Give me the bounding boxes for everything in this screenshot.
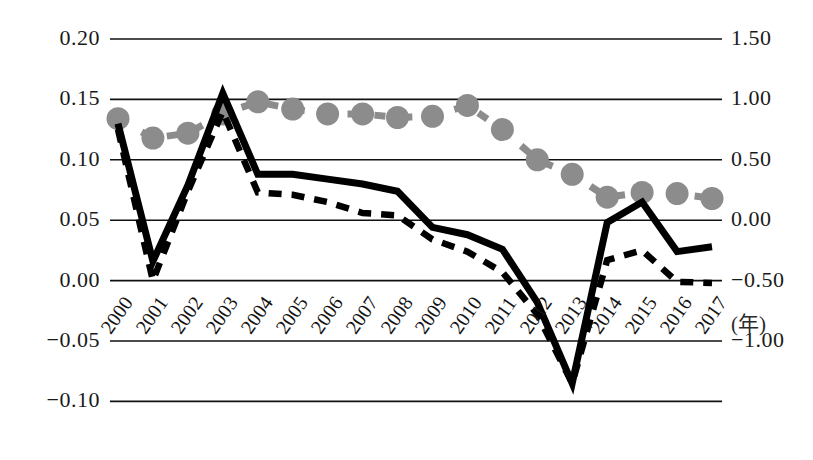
data-point-marker	[316, 102, 339, 125]
data-point-marker	[526, 148, 549, 171]
left-axis-tick-label: 0.10	[0, 146, 100, 172]
left-axis-tick-label: −0.05	[0, 327, 100, 353]
right-axis-tick-label: 0.00	[731, 206, 772, 232]
left-axis-tick-label: 0.15	[0, 85, 100, 111]
chart-container: 0.200.150.100.050.00−0.05−0.10 1.501.000…	[0, 0, 813, 460]
dashed-line-series	[118, 112, 712, 384]
right-axis-tick-label: 0.50	[731, 146, 772, 172]
gridlines	[110, 39, 722, 401]
marker-series-line	[118, 102, 712, 199]
right-axis-tick-label: 1.50	[731, 25, 772, 51]
left-axis-tick-label: 0.05	[0, 206, 100, 232]
data-point-marker	[351, 102, 374, 125]
data-point-marker	[491, 118, 514, 141]
solid-line-series	[118, 93, 712, 383]
left-axis-tick-label: −0.10	[0, 387, 100, 413]
data-point-marker	[421, 105, 444, 128]
data-point-marker	[561, 163, 584, 186]
data-point-marker	[386, 106, 409, 129]
data-point-marker	[701, 187, 724, 210]
data-point-marker	[456, 94, 479, 117]
data-point-marker	[246, 90, 269, 113]
left-axis-tick-label: 0.00	[0, 267, 100, 293]
data-point-marker	[141, 127, 164, 150]
data-point-marker	[281, 98, 304, 121]
data-point-marker	[176, 122, 199, 145]
right-axis-tick-label: −0.50	[731, 267, 784, 293]
right-axis-tick-label: 1.00	[731, 85, 772, 111]
left-axis-tick-label: 0.20	[0, 25, 100, 51]
chart-plot-area	[0, 0, 813, 460]
data-point-marker	[666, 182, 689, 205]
data-point-marker	[596, 186, 619, 209]
x-axis-unit-label: (年)	[731, 307, 766, 337]
